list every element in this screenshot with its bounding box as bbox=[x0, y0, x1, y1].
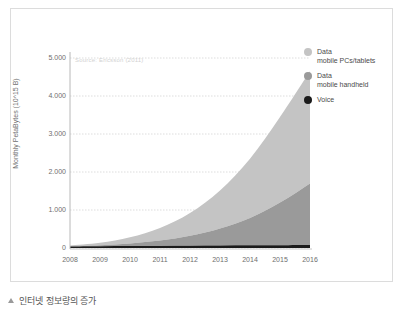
legend-label: Voice bbox=[317, 95, 334, 104]
figure-caption: 인터넷 정보량의 증가 bbox=[8, 294, 96, 307]
y-tick-label: 2.000 bbox=[36, 168, 66, 175]
x-tick-label: 2010 bbox=[115, 256, 145, 263]
source-annotation: Source: Ericsson (2011) bbox=[75, 57, 144, 63]
x-tick-label: 2015 bbox=[265, 256, 295, 263]
figure-container: Source: Ericsson (2011) Monthly PetaByte… bbox=[0, 0, 405, 314]
legend-label: Data mobile PCs/tablets bbox=[317, 47, 375, 65]
x-tick-label: 2014 bbox=[235, 256, 265, 263]
legend-item-voice[interactable]: Voice bbox=[304, 95, 400, 104]
y-tick-label: 1.000 bbox=[36, 206, 66, 213]
legend-item-data-mobile-pcs-tablets[interactable]: Data mobile PCs/tablets bbox=[304, 47, 400, 65]
y-tick-label: 0 bbox=[36, 244, 66, 251]
legend-swatch-icon bbox=[304, 96, 312, 104]
y-tick-label: 4.000 bbox=[36, 92, 66, 99]
x-tick-label: 2011 bbox=[145, 256, 175, 263]
y-tick-label: 5.000 bbox=[36, 54, 66, 61]
y-tick-label: 3.000 bbox=[36, 130, 66, 137]
legend-swatch-icon bbox=[304, 72, 312, 80]
legend-label: Data mobile handheld bbox=[317, 71, 368, 89]
figure-caption-text: 인터넷 정보량의 증가 bbox=[19, 294, 96, 307]
chart-legend: Data mobile PCs/tablets Data mobile hand… bbox=[304, 47, 400, 110]
triangle-up-icon bbox=[8, 298, 14, 303]
legend-swatch-icon bbox=[304, 48, 312, 56]
x-tick-label: 2009 bbox=[85, 256, 115, 263]
x-tick-label: 2013 bbox=[205, 256, 235, 263]
legend-item-data-mobile-handheld[interactable]: Data mobile handheld bbox=[304, 71, 400, 89]
x-tick-label: 2008 bbox=[55, 256, 85, 263]
x-tick-label: 2016 bbox=[295, 256, 325, 263]
y-axis-title: Monthly PetaBytes (10^15 B) bbox=[12, 64, 19, 184]
x-tick-label: 2012 bbox=[175, 256, 205, 263]
